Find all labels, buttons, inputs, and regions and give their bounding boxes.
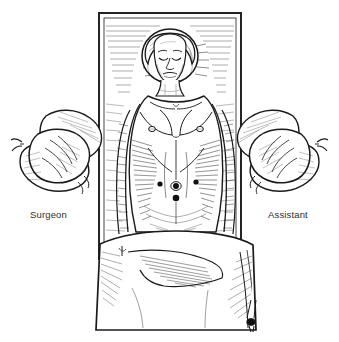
- port-site-umbilical: [173, 183, 179, 189]
- port-site-infraumbilical: [173, 195, 180, 202]
- port-site-right-lateral: [193, 179, 198, 184]
- surgical-drape: [96, 231, 256, 330]
- label-surgeon: Surgeon: [30, 209, 67, 220]
- surgical-positioning-figure: Surgeon Assistant: [0, 0, 339, 342]
- patient-torso: [129, 96, 223, 232]
- surgical-illustration: [0, 0, 339, 342]
- port-site-left-lateral: [157, 181, 162, 186]
- label-assistant: Assistant: [268, 209, 308, 220]
